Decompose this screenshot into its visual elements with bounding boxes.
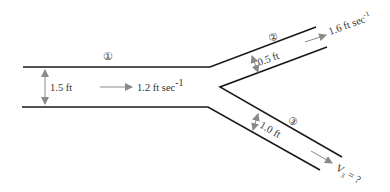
section-2-flow-arrow [305, 35, 326, 42]
section-3-flow-arrow [311, 151, 332, 163]
pipe-diagram: ① 1.5 ft 1.2 ft sec-1 ② 0.5 ft 1.6 ft se… [0, 0, 390, 192]
section-3-velocity: V3 = ? [333, 162, 364, 188]
branch-divider-wall [220, 47, 342, 157]
section-3-width-arrow [253, 114, 258, 130]
section-2-velocity: 1.6 ft sec-1 [326, 9, 372, 36]
section-1-velocity: 1.2 ft sec-1 [137, 77, 184, 93]
section-1-marker: ① [103, 51, 113, 62]
section-1-width-label: 1.5 ft [50, 82, 72, 93]
